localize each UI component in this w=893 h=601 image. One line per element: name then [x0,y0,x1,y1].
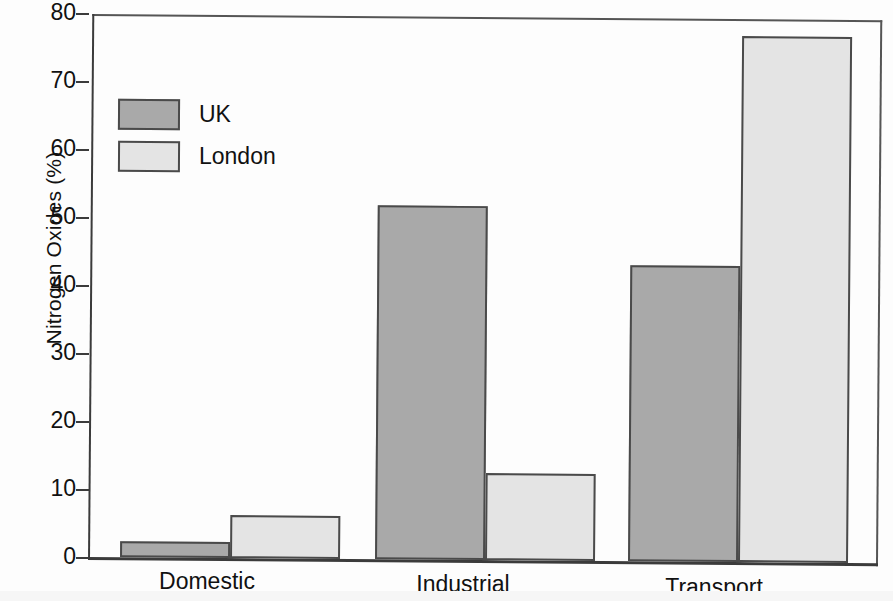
legend: UK London [118,93,276,177]
bar-london-domestic [230,515,340,559]
y-tick-mark-60 [76,149,89,151]
y-tick-mark-50 [76,217,89,219]
legend-item-uk: UK [118,93,276,135]
y-tick-mark-30 [76,353,89,355]
legend-label-london: London [199,143,276,170]
y-tick-label-40: 40 [18,273,76,296]
legend-label-uk: UK [199,101,231,128]
y-tick-label-0: 0 [18,545,76,568]
bar-uk-transport [628,265,740,562]
y-tick-label-20: 20 [18,409,76,432]
y-axis-line [88,14,94,560]
y-tick-label-50: 50 [18,205,76,228]
y-tick-mark-80 [76,13,89,15]
plot-area: Nitrogen Oxides (%) 80 70 60 50 40 30 20… [0,0,893,601]
legend-swatch-london-icon [118,140,180,171]
y-tick-mark-20 [76,421,89,423]
y-tick-label-80: 80 [18,1,76,24]
y-tick-mark-40 [76,285,89,287]
legend-swatch-uk-icon [118,98,180,129]
bar-uk-domestic [120,541,230,558]
legend-item-london: London [118,135,276,177]
frame-right-rule [876,20,882,566]
bar-london-industrial [485,473,596,561]
y-tick-mark-10 [76,489,89,491]
y-tick-mark-70 [76,81,89,83]
y-tick-label-70: 70 [18,69,76,92]
y-tick-label-10: 10 [18,477,76,500]
bar-uk-industrial [375,205,488,560]
bar-chart-figure: Nitrogen Oxides (%) 80 70 60 50 40 30 20… [0,0,893,601]
bar-london-transport [738,36,852,563]
frame-top-rule [92,14,882,22]
y-tick-label-30: 30 [18,341,76,364]
y-tick-label-60: 60 [18,137,76,160]
scan-edge-artifact [0,591,893,601]
